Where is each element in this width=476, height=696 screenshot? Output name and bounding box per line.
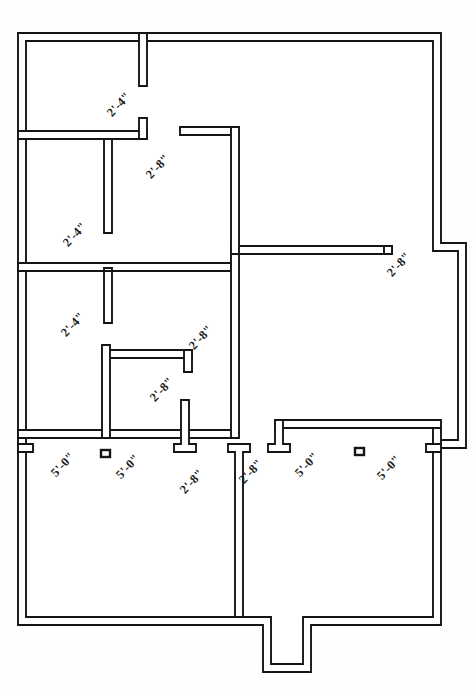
interior-wall-v-center-lower (231, 254, 239, 438)
interior-wall-v-bay-cap (384, 246, 392, 254)
interior-wall-left-porch-jamb (18, 444, 33, 452)
interior-wall-h-mid-left (18, 263, 238, 271)
interior-wall-v-left-lower2 (104, 271, 112, 323)
interior-wall-bay-jamb (433, 428, 441, 444)
post-marker-right (355, 448, 364, 455)
interior-wall-right-porch-jamb (426, 444, 441, 452)
floor-plan-canvas: 2'-4" 2'-8" 2'-4" 2'-8" 2'-4" 2'-8" 2'-8… (0, 0, 476, 696)
floor-plan-drawing (0, 0, 476, 696)
interior-wall-h-bath-top (102, 350, 192, 358)
interior-wall-v-center-upper (231, 127, 239, 254)
interior-wall-h-lower-left (18, 430, 238, 438)
interior-wall-v-left-upper (104, 139, 112, 233)
post-marker-left (101, 450, 110, 457)
interior-wall-v-top-stub-b (139, 118, 147, 139)
interior-wall-h-right-wing (231, 246, 392, 254)
interior-wall-v-bath-right (184, 350, 192, 372)
interior-wall-h-upper-right (180, 127, 238, 135)
interior-wall-h-right-porch (275, 420, 441, 428)
interior-wall-v-top-stub-a (139, 33, 147, 86)
interior-wall-v-bath-left (102, 345, 110, 438)
interior-wall-h-top-left (18, 131, 147, 139)
